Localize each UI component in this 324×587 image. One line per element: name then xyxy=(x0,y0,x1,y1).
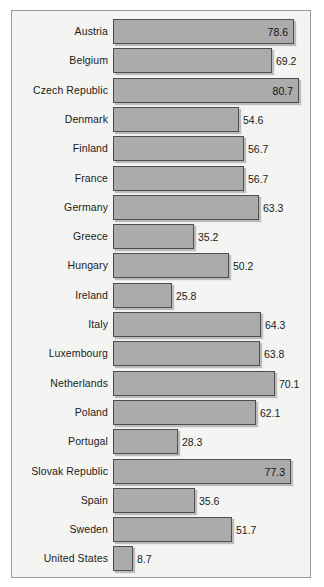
category-label: Greece xyxy=(73,224,108,249)
bar-value-label: 54.6 xyxy=(238,108,263,133)
chart-frame: Austria78.6Belgium69.2Czech Republic80.7… xyxy=(11,10,311,578)
bar-track: 28.3 xyxy=(113,429,310,454)
category-label: Italy xyxy=(88,312,108,337)
bar-row: Denmark54.6 xyxy=(12,107,310,132)
bar-row: Italy64.3 xyxy=(12,312,310,337)
bar-value-label: 35.6 xyxy=(194,489,219,514)
bar-row: Czech Republic80.7 xyxy=(12,78,310,103)
bar-value-label: 64.3 xyxy=(260,313,285,338)
bar-value-label: 63.8 xyxy=(259,342,284,367)
category-label: Hungary xyxy=(68,253,108,278)
category-label: Germany xyxy=(64,195,108,220)
category-label: Austria xyxy=(75,19,108,44)
bar: 69.2 xyxy=(113,48,272,73)
bar-track: 64.3 xyxy=(113,312,310,337)
category-label: Netherlands xyxy=(50,371,108,396)
bar-value-label: 78.6 xyxy=(268,20,288,45)
bar: 64.3 xyxy=(113,312,261,337)
bar: 78.6 xyxy=(113,19,294,44)
bar-row: Slovak Republic77.3 xyxy=(12,459,310,484)
category-label: Belgium xyxy=(69,48,108,73)
bar-row: United States8.7 xyxy=(12,546,310,571)
bar: 51.7 xyxy=(113,517,232,542)
bar-track: 62.1 xyxy=(113,400,310,425)
bar: 63.8 xyxy=(113,341,260,366)
bar: 25.8 xyxy=(113,283,172,308)
bar-row: Austria78.6 xyxy=(12,19,310,44)
bar: 77.3 xyxy=(113,459,291,484)
bar-row: Poland62.1 xyxy=(12,400,310,425)
bar-value-label: 77.3 xyxy=(265,460,285,485)
bar: 50.2 xyxy=(113,253,229,278)
bar-track: 25.8 xyxy=(113,283,310,308)
bar-value-label: 56.7 xyxy=(243,137,268,162)
bar-track: 56.7 xyxy=(113,166,310,191)
bar-track: 51.7 xyxy=(113,517,310,542)
bar: 35.2 xyxy=(113,224,194,249)
bar-row: Luxembourg63.8 xyxy=(12,341,310,366)
category-label: Czech Republic xyxy=(33,78,108,103)
category-label: Ireland xyxy=(75,283,108,308)
bar-row: Finland56.7 xyxy=(12,136,310,161)
bar-row: Ireland25.8 xyxy=(12,283,310,308)
bar-row: Sweden51.7 xyxy=(12,517,310,542)
bar: 56.7 xyxy=(113,136,244,161)
bar-track: 35.6 xyxy=(113,488,310,513)
bar-track: 56.7 xyxy=(113,136,310,161)
bar-value-label: 62.1 xyxy=(255,401,280,426)
bar-value-label: 50.2 xyxy=(228,254,253,279)
bar-row: Greece35.2 xyxy=(12,224,310,249)
bar-track: 35.2 xyxy=(113,224,310,249)
bar-row: Spain35.6 xyxy=(12,488,310,513)
bar-value-label: 80.7 xyxy=(273,79,293,104)
bar: 70.1 xyxy=(113,371,275,396)
bar-row: Portugal28.3 xyxy=(12,429,310,454)
bar: 54.6 xyxy=(113,107,239,132)
bar-track: 8.7 xyxy=(113,546,310,571)
category-label: Poland xyxy=(75,400,108,425)
bar-value-label: 35.2 xyxy=(193,225,218,250)
category-label: Luxembourg xyxy=(49,341,108,366)
bar: 8.7 xyxy=(113,546,133,571)
bar: 35.6 xyxy=(113,488,195,513)
plot-area: Austria78.6Belgium69.2Czech Republic80.7… xyxy=(12,11,310,577)
bar-track: 70.1 xyxy=(113,371,310,396)
bar: 62.1 xyxy=(113,400,256,425)
bar-row: Netherlands70.1 xyxy=(12,371,310,396)
bar: 28.3 xyxy=(113,429,178,454)
bar-track: 50.2 xyxy=(113,253,310,278)
category-label: Finland xyxy=(73,136,108,161)
bar-row: Germany63.3 xyxy=(12,195,310,220)
category-label: Slovak Republic xyxy=(31,459,108,484)
bar-value-label: 69.2 xyxy=(271,49,296,74)
bar: 80.7 xyxy=(113,78,299,103)
category-label: United States xyxy=(44,546,108,571)
bar-track: 54.6 xyxy=(113,107,310,132)
bar-value-label: 63.3 xyxy=(258,196,283,221)
bar-track: 63.3 xyxy=(113,195,310,220)
bar-row: Hungary50.2 xyxy=(12,253,310,278)
category-label: Sweden xyxy=(69,517,108,542)
bar-row: Belgium69.2 xyxy=(12,48,310,73)
bar-value-label: 8.7 xyxy=(132,547,152,572)
bar-track: 78.6 xyxy=(113,19,310,44)
bar-value-label: 25.8 xyxy=(171,284,196,309)
category-label: Portugal xyxy=(68,429,108,454)
bar-value-label: 28.3 xyxy=(177,430,202,455)
bar-value-label: 56.7 xyxy=(243,167,268,192)
bar: 63.3 xyxy=(113,195,259,220)
category-label: Spain xyxy=(81,488,108,513)
bar-track: 69.2 xyxy=(113,48,310,73)
bar-chart-figure: Austria78.6Belgium69.2Czech Republic80.7… xyxy=(0,0,324,587)
category-label: France xyxy=(75,166,108,191)
bar-value-label: 51.7 xyxy=(231,518,256,543)
category-label: Denmark xyxy=(65,107,108,132)
bar: 56.7 xyxy=(113,166,244,191)
bar-value-label: 70.1 xyxy=(274,372,299,397)
bar-track: 77.3 xyxy=(113,459,310,484)
bar-track: 80.7 xyxy=(113,78,310,103)
bar-row: France56.7 xyxy=(12,166,310,191)
bar-track: 63.8 xyxy=(113,341,310,366)
